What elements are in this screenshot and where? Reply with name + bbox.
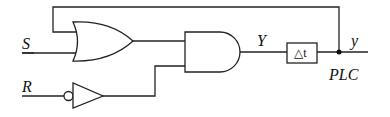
y-output-label: y <box>349 32 359 50</box>
or-gate <box>73 22 133 61</box>
circuit-svg: S R Y △t y PLC <box>0 0 390 117</box>
not-output-wire <box>103 66 185 96</box>
delay-label: △t <box>294 46 307 60</box>
not-bubble <box>64 92 73 101</box>
plc-label: PLC <box>328 66 359 83</box>
junction-dot <box>337 50 342 55</box>
logic-diagram: S R Y △t y PLC <box>0 0 390 117</box>
y-upper-label: Y <box>257 32 268 49</box>
s-label: S <box>22 35 30 52</box>
not-gate <box>73 83 103 108</box>
r-label: R <box>21 78 32 95</box>
and-gate <box>185 32 240 72</box>
